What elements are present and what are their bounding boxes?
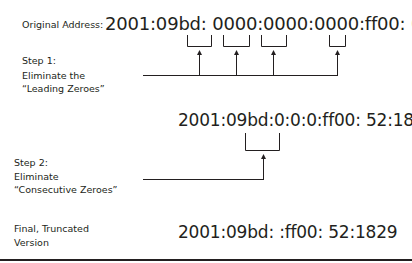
arrow-up-icon <box>335 50 340 55</box>
arrow-up-icon <box>197 50 202 55</box>
bracket-group-1 <box>188 35 212 47</box>
bracket-group-3 <box>262 35 287 47</box>
arrowheads <box>197 50 340 159</box>
arrow-up-icon <box>271 50 276 55</box>
arrow-up-icon <box>234 50 239 55</box>
bottom-divider <box>0 259 412 261</box>
bracket-group-4 <box>330 35 346 47</box>
bracket-group-2 <box>224 35 250 47</box>
connector-lines <box>0 0 412 263</box>
bracket-consecutive-zeroes <box>246 133 280 151</box>
arrow-up-icon <box>261 154 266 159</box>
